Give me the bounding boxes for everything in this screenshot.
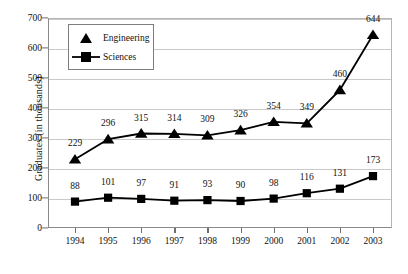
x-axis-tick-mark [174,228,175,233]
x-axis-tick-mark [207,228,208,233]
chart-legend: Engineering Sciences [68,24,154,70]
gridline [49,19,391,20]
x-axis-tick-label: 2003 [353,236,393,246]
y-axis-tick-label: 300 [2,133,42,143]
data-point-value-label: 644 [353,14,393,24]
x-axis-tick-mark [141,228,142,233]
x-axis-tick-mark [307,228,308,233]
x-axis-tick-mark [75,228,76,233]
legend-entry-sciences: Sciences [69,47,153,67]
triangle-marker-icon [69,29,103,47]
x-axis-tick-mark [373,228,374,233]
data-point-value-label: 349 [287,102,327,112]
x-axis-tick-mark [241,228,242,233]
y-axis-tick-label: 400 [2,103,42,113]
legend-label-engineering: Engineering [103,33,149,43]
y-axis-tick-label: 0 [2,223,42,233]
gridline [49,139,391,140]
data-point-value-label: 229 [55,138,95,148]
y-axis-tick-label: 200 [2,163,42,173]
x-axis-tick-mark [340,228,341,233]
y-axis-tick-label: 600 [2,43,42,53]
chart-container: Graduates (in thousands) 010020030040050… [0,0,408,274]
data-point-value-label: 173 [353,155,393,165]
gridline [49,79,391,80]
legend-entry-engineering: Engineering [69,28,153,48]
y-axis-tick-label: 100 [2,193,42,203]
y-axis-tick-label: 700 [2,13,42,23]
data-point-value-label: 460 [320,69,360,79]
y-axis-tick-label: 500 [2,73,42,83]
legend-label-sciences: Sciences [103,52,136,62]
x-axis-tick-mark [274,228,275,233]
square-marker-icon [69,48,103,66]
x-axis-tick-mark [108,228,109,233]
gridline [49,199,391,200]
data-point-value-label: 131 [320,168,360,178]
